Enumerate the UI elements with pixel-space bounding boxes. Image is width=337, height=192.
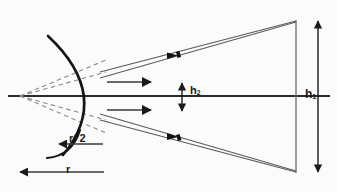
dashed-ray-lower-inner xyxy=(20,96,106,120)
dashed-ray-upper-outer xyxy=(20,60,106,96)
lower-ray-bundle xyxy=(100,114,296,172)
label-h1: h1 xyxy=(305,88,316,101)
label-h2: h2 xyxy=(190,85,201,97)
upper-ray-bundle xyxy=(100,21,296,78)
upper-ray-a xyxy=(100,21,296,72)
label-h2-subscript: 2 xyxy=(197,89,201,96)
dashed-ray-upper-inner xyxy=(20,72,106,96)
lower-ray-a xyxy=(100,114,296,171)
label-radius: r xyxy=(66,164,70,175)
upper-ray-b xyxy=(100,22,296,78)
label-radius-half: r/ 2 xyxy=(69,133,86,144)
lower-ray-b xyxy=(100,120,296,172)
diagram-canvas xyxy=(0,0,337,192)
label-h1-subscript: 1 xyxy=(312,92,316,101)
label-h2-base: h xyxy=(190,84,197,96)
ray-diagram-figure: h1 h2 r/ 2 r xyxy=(0,0,337,192)
dashed-ray-lower-outer xyxy=(20,96,106,133)
